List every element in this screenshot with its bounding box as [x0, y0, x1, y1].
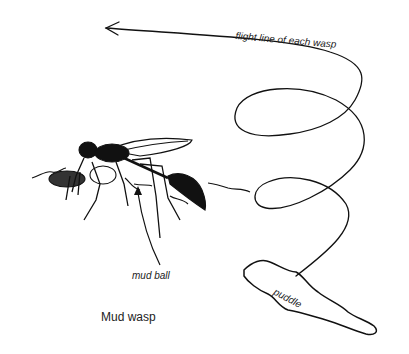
figure-caption: Mud wasp	[101, 310, 156, 324]
mud-wasp-diagram: flight line of each wasp mud ball puddle…	[0, 0, 409, 354]
wasp-drawing	[49, 138, 206, 238]
puddle-outline	[244, 260, 376, 334]
mud-ball-label: mud ball	[132, 270, 170, 281]
illustration	[0, 0, 409, 354]
